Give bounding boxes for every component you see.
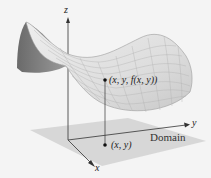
x-axis-label: x: [95, 163, 99, 173]
y-axis-label: y: [192, 118, 196, 128]
surface-point-dot: [103, 78, 107, 82]
z-axis-arrow-icon: [66, 17, 70, 23]
y-axis-arrow-icon: [184, 123, 190, 128]
surface-point-label: (x, y, f(x, y)): [109, 75, 157, 85]
diagram-canvas: [0, 0, 211, 178]
domain-label: Domain: [150, 132, 185, 143]
saddle-surface-figure: z y x (x, y, f(x, y)) (x, y) Domain: [0, 0, 211, 178]
domain-point-dot: [103, 143, 107, 147]
domain-point-label: (x, y): [111, 140, 132, 150]
z-axis-label: z: [64, 5, 68, 15]
